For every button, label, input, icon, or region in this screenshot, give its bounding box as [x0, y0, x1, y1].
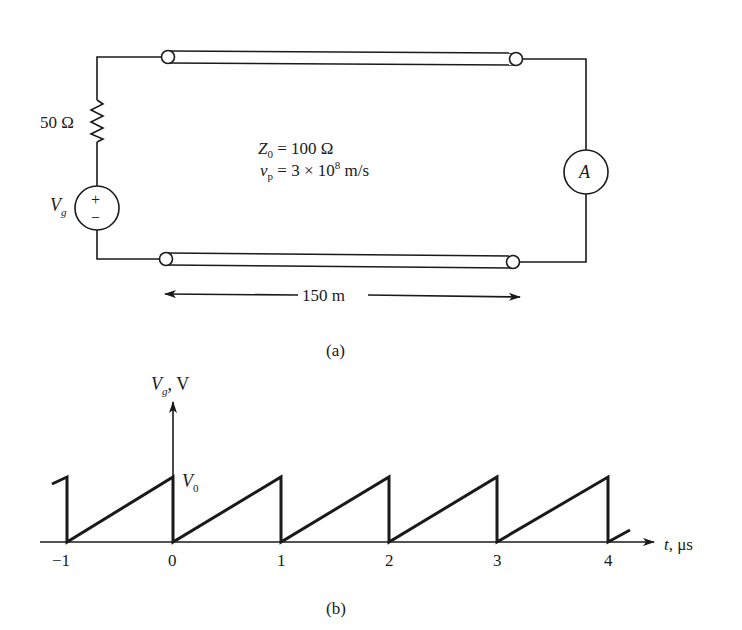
right-wire [520, 59, 586, 262]
transmission-line-top [162, 51, 523, 66]
source-plus: + [91, 192, 100, 208]
vp-symbol: v [260, 161, 268, 180]
z0-subscript: 0 [267, 148, 273, 160]
z0-value: = 100 Ω [277, 139, 333, 158]
peak-subscript: 0 [193, 482, 199, 494]
y-axis-unit: , V [168, 374, 190, 394]
length-arrow-right [368, 295, 520, 297]
resistor-icon [91, 100, 103, 142]
x-axis-unit: , μs [669, 535, 693, 554]
y-axis-label: Vg, V [151, 375, 189, 393]
x-tick-label: 2 [385, 552, 394, 569]
left-wire [97, 57, 161, 259]
x-tick-label: 0 [168, 552, 177, 569]
caption-a: (a) [326, 342, 345, 359]
vp-parameter: vp = 3 × 108 m/s [260, 162, 369, 179]
x-tick-label: 4 [604, 552, 613, 569]
caption-b: (b) [326, 600, 346, 617]
source-minus: − [91, 210, 100, 226]
sawtooth-trace [52, 477, 630, 542]
x-tick-label: 1 [277, 552, 286, 569]
y-axis-symbol: V [151, 374, 162, 394]
waveform-plot [40, 402, 654, 542]
length-arrow-left [165, 294, 298, 295]
length-label: 150 m [302, 287, 345, 304]
transmission-line-bottom [160, 253, 520, 269]
figure-canvas [0, 0, 742, 630]
source-subscript: g [61, 206, 67, 218]
vp-value: = 3 × 10 [277, 161, 334, 180]
z0-parameter: Z0 = 100 Ω [258, 140, 333, 157]
source-label: Vg [50, 196, 67, 214]
ammeter-label: A [579, 163, 590, 181]
source-symbol: V [50, 195, 61, 215]
peak-label: V0 [182, 472, 199, 490]
vp-subscript: p [268, 170, 274, 182]
vp-unit: m/s [340, 161, 369, 180]
x-tick-label: −1 [52, 552, 70, 569]
x-tick-label: 3 [493, 552, 502, 569]
x-axis-label: t, μs [664, 536, 693, 553]
resistor-label: 50 Ω [40, 114, 74, 131]
peak-symbol: V [182, 471, 193, 491]
